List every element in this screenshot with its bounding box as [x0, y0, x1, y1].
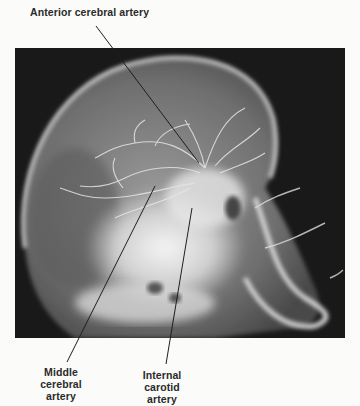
- leader-line-middle: [67, 186, 155, 362]
- label-line: artery: [38, 390, 84, 402]
- leader-line-anterior: [96, 26, 199, 163]
- leader-line-internal: [166, 208, 192, 364]
- label-anterior-cerebral-artery: Anterior cerebral artery: [30, 6, 149, 18]
- label-line: cerebral: [38, 378, 84, 390]
- label-internal-carotid-artery: Internal carotid artery: [142, 369, 182, 405]
- label-line: artery: [142, 393, 182, 405]
- leader-lines: [0, 0, 360, 406]
- label-line: Internal: [142, 369, 182, 381]
- label-middle-cerebral-artery: Middle cerebral artery: [38, 366, 84, 402]
- label-line: carotid: [142, 381, 182, 393]
- label-line: Middle: [38, 366, 84, 378]
